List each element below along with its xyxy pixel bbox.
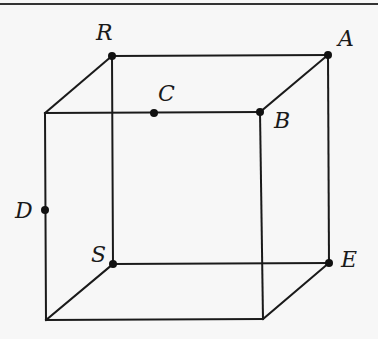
point-A — [324, 51, 332, 59]
label-A: A — [336, 26, 354, 51]
point-E — [325, 259, 333, 267]
label-E: E — [340, 247, 357, 272]
edge-connect-bottom-right — [263, 263, 329, 319]
edge-R-S — [112, 56, 113, 264]
cube-diagram: R A C B D S E — [0, 0, 378, 339]
edge-front-left — [45, 113, 46, 320]
edge-S-E — [113, 263, 329, 264]
edge-connect-bottom-left — [46, 264, 113, 320]
edge-front-right — [260, 112, 263, 319]
point-R — [108, 52, 116, 60]
edge-R-A — [112, 55, 328, 56]
edge-A-E — [328, 55, 329, 263]
cube-figure: R A C B D S E — [0, 0, 378, 339]
point-S — [109, 260, 117, 268]
label-S: S — [91, 242, 106, 267]
label-C: C — [158, 81, 175, 106]
edge-front-bottom — [46, 319, 263, 320]
point-C — [150, 109, 158, 117]
point-D — [41, 206, 49, 214]
label-R: R — [95, 20, 113, 45]
label-B: B — [273, 108, 290, 133]
edge-B-A — [260, 55, 328, 112]
point-B — [256, 108, 264, 116]
edge-connect-top-left — [45, 56, 112, 113]
label-D: D — [14, 198, 33, 223]
